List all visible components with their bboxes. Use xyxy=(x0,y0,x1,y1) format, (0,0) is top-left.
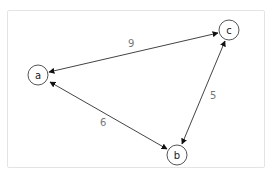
edge-c-b: 5 xyxy=(182,41,225,144)
node-a[interactable]: a xyxy=(28,65,48,85)
edge-a-c: 9 xyxy=(49,33,218,72)
edge-c-b-line xyxy=(182,41,225,144)
edge-a-b-weight: 6 xyxy=(100,117,106,128)
graph-canvas: 9 5 6 a c b xyxy=(0,0,280,178)
node-a-label: a xyxy=(35,70,41,81)
node-c-label: c xyxy=(226,25,232,36)
node-b[interactable]: b xyxy=(167,145,187,165)
edge-c-b-weight: 5 xyxy=(210,90,216,101)
node-c[interactable]: c xyxy=(219,20,239,40)
edge-a-b: 6 xyxy=(50,82,167,149)
edge-a-b-line xyxy=(50,82,167,149)
node-b-label: b xyxy=(174,150,180,161)
edge-a-c-weight: 9 xyxy=(128,38,134,49)
